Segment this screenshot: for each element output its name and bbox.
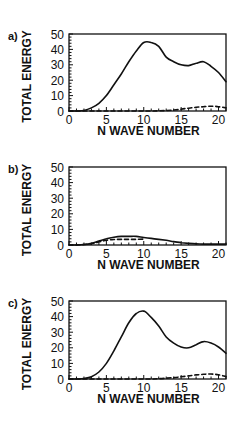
x-axis-title: N WAVE NUMBER bbox=[97, 124, 200, 138]
y-tick-label: 30 bbox=[51, 192, 65, 206]
x-tick-label: 20 bbox=[212, 113, 226, 127]
y-tick-label: 30 bbox=[51, 326, 65, 340]
y-tick-label: 30 bbox=[51, 58, 65, 72]
x-axis-title: N WAVE NUMBER bbox=[97, 392, 200, 406]
panel-c: 0510152001020304050N WAVE NUMBERTOTAL EN… bbox=[8, 295, 226, 407]
x-tick-label: 0 bbox=[66, 113, 73, 127]
y-tick-label: 40 bbox=[51, 310, 65, 324]
y-tick-label: 40 bbox=[51, 176, 65, 190]
y-axis-title: TOTAL ENERGY bbox=[20, 164, 34, 257]
chart-figure: 0510152001020304050N WAVE NUMBERTOTAL EN… bbox=[0, 0, 239, 434]
y-axis-title: TOTAL ENERGY bbox=[20, 298, 34, 391]
y-tick-label: 20 bbox=[51, 74, 65, 88]
y-tick-label: 20 bbox=[51, 341, 65, 355]
plot-frame bbox=[69, 34, 226, 111]
y-tick-label: 20 bbox=[51, 207, 65, 221]
panel-label: c) bbox=[8, 297, 18, 309]
solid-series-line bbox=[69, 311, 226, 379]
y-tick-label: 10 bbox=[51, 223, 65, 237]
y-tick-label: 40 bbox=[51, 43, 65, 57]
panel-label: a) bbox=[8, 30, 18, 42]
x-axis-title: N WAVE NUMBER bbox=[97, 258, 200, 272]
y-axis-title: TOTAL ENERGY bbox=[20, 30, 34, 123]
plot-frame bbox=[69, 167, 226, 245]
y-tick-label: 50 bbox=[51, 28, 65, 42]
panel-b: 0510152001020304050N WAVE NUMBERTOTAL EN… bbox=[8, 161, 226, 273]
y-tick-label: 0 bbox=[57, 373, 64, 387]
solid-series-line bbox=[69, 42, 226, 111]
y-tick-label: 50 bbox=[51, 161, 65, 175]
y-tick-label: 10 bbox=[51, 357, 65, 371]
panel-label: b) bbox=[8, 163, 19, 175]
y-tick-label: 0 bbox=[57, 105, 64, 119]
y-tick-label: 0 bbox=[57, 239, 64, 253]
panel-a: 0510152001020304050N WAVE NUMBERTOTAL EN… bbox=[8, 28, 226, 139]
x-tick-label: 0 bbox=[66, 381, 73, 395]
x-tick-label: 0 bbox=[66, 247, 73, 261]
x-tick-label: 20 bbox=[212, 247, 226, 261]
y-tick-label: 50 bbox=[51, 295, 65, 309]
x-tick-label: 20 bbox=[212, 381, 226, 395]
y-tick-label: 10 bbox=[51, 89, 65, 103]
